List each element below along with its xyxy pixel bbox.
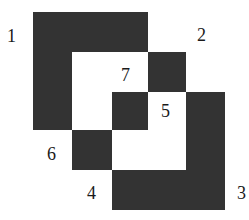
label-2: 2: [197, 26, 206, 44]
piece-1-left-column: [33, 52, 72, 130]
piece-3-bottom-bar: [112, 170, 225, 210]
piece-6-square: [72, 130, 112, 170]
piece-5-square: [112, 92, 148, 130]
diagram-canvas: 1 2 7 5 6 4 3: [0, 0, 249, 220]
label-7: 7: [121, 66, 130, 84]
label-3: 3: [237, 184, 246, 202]
label-5: 5: [161, 102, 170, 120]
label-6: 6: [47, 145, 56, 163]
piece-2-square: [148, 52, 186, 92]
label-1: 1: [7, 27, 16, 45]
piece-1-top-bar: [33, 12, 148, 52]
label-4: 4: [87, 184, 96, 202]
